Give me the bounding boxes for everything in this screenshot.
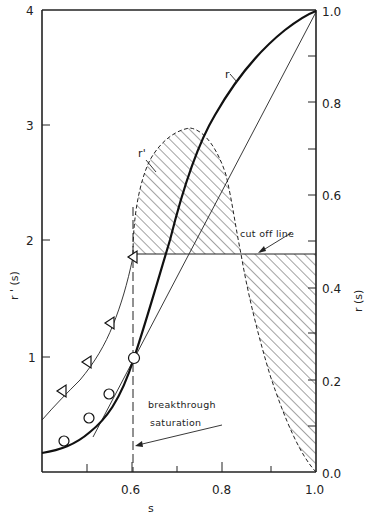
y-left-tick-4: 4 <box>26 4 34 18</box>
circle-marker <box>129 353 140 364</box>
y-right-tick-1.0: 1.0 <box>322 5 341 19</box>
breakthrough-arrowhead <box>135 441 143 447</box>
x-tick-1.0: 1.0 <box>305 483 324 497</box>
chart: 4 3 2 1 1.0 0.8 0.6 0.4 0.2 0.0 0.6 0.8 … <box>0 0 370 520</box>
label-rprime: r' <box>138 147 146 160</box>
triangle-marker <box>82 356 91 368</box>
label-r-leader <box>230 74 237 82</box>
y-right-tick-0.2: 0.2 <box>322 375 341 389</box>
y-right-tick-0.4: 0.4 <box>322 282 341 296</box>
circle-marker <box>104 389 114 399</box>
circle-marker <box>59 436 69 446</box>
y-right-axis-title: r (s) <box>352 290 365 312</box>
x-axis-title: s <box>148 502 154 515</box>
y-right-tick-0.6: 0.6 <box>322 189 341 203</box>
hatch-upper-region <box>133 128 241 254</box>
y-right-tick-0.8: 0.8 <box>322 97 341 111</box>
triangle-marker <box>57 385 66 397</box>
x-tick-0.8: 0.8 <box>212 483 231 497</box>
hatch-lower-region <box>241 254 316 472</box>
circle-marker <box>84 413 94 423</box>
y-right-tick-0.0: 0.0 <box>322 467 341 481</box>
cutoff-arrowhead <box>258 246 266 253</box>
y-left-tick-3: 3 <box>26 119 34 133</box>
label-r: r <box>225 68 230 81</box>
y-left-tick-1: 1 <box>28 351 36 365</box>
y-left-axis-title: r ' (s) <box>8 271 21 300</box>
y-left-tick-2: 2 <box>26 234 34 248</box>
label-breakthrough: breakthrough <box>148 399 216 410</box>
x-tick-0.6: 0.6 <box>121 483 140 497</box>
breakthrough-arrow-line <box>138 425 222 445</box>
bottom-ticks <box>87 462 271 472</box>
label-cutoff: cut off line <box>240 228 294 239</box>
circle-markers <box>59 353 140 447</box>
triangle-marker <box>105 317 114 329</box>
label-saturation: saturation <box>150 417 201 428</box>
left-ticks <box>42 125 50 357</box>
